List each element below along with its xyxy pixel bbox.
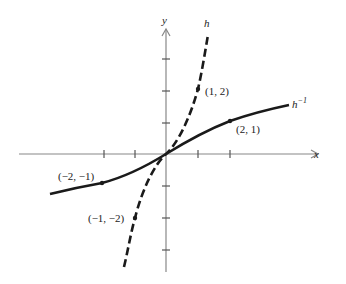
label-point-neg1-neg2: (−1, −2)	[88, 212, 125, 225]
point-1-2	[196, 87, 200, 91]
h-inverse-label: h−1	[292, 96, 307, 110]
function-inverse-graph: x y h h−1 (1, 2) (2, 1) (−2, −1) (−1, −2…	[0, 0, 346, 284]
point-2-1	[228, 119, 232, 123]
label-point-neg2-neg1: (−2, −1)	[58, 170, 95, 183]
point-neg1-neg2	[133, 216, 137, 220]
label-point-1-2: (1, 2)	[205, 85, 229, 98]
x-axis-label: x	[313, 148, 319, 160]
point-neg2-neg1	[100, 181, 104, 185]
y-axis-label: y	[161, 14, 167, 26]
h-curve-label: h	[204, 17, 210, 29]
label-point-2-1: (2, 1)	[236, 123, 260, 136]
